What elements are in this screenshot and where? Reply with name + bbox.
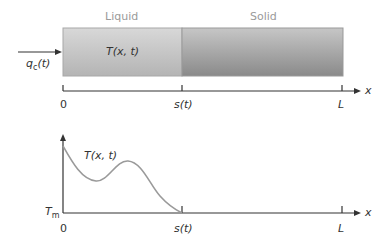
solid-label: Solid bbox=[250, 11, 277, 22]
flux-label: qc(t) bbox=[26, 58, 50, 72]
bottom-axis-origin: 0 bbox=[60, 223, 67, 234]
top-x-axis bbox=[63, 85, 361, 94]
top-axis-interface: s(t) bbox=[174, 99, 193, 110]
solid-region bbox=[182, 28, 343, 76]
bottom-axes bbox=[60, 134, 361, 216]
liquid-label: Liquid bbox=[105, 11, 138, 22]
y-symbol: T bbox=[45, 205, 52, 218]
field-label: T(x, t) bbox=[106, 46, 139, 57]
flux-argument: (t) bbox=[37, 57, 50, 70]
y-axis-label: Tm bbox=[45, 206, 60, 220]
curve-label: T(x, t) bbox=[84, 150, 117, 161]
temperature-curve bbox=[63, 146, 182, 213]
y-subscript: m bbox=[52, 211, 60, 220]
top-axis-var: x bbox=[365, 85, 372, 96]
top-axis-origin: 0 bbox=[60, 99, 67, 110]
bottom-axis-end: L bbox=[338, 223, 344, 234]
bottom-axis-var: x bbox=[365, 207, 372, 218]
bottom-axis-interface: s(t) bbox=[174, 223, 193, 234]
flux-arrow-icon bbox=[18, 49, 62, 55]
top-axis-end: L bbox=[338, 99, 344, 110]
flux-symbol: q bbox=[26, 57, 33, 70]
